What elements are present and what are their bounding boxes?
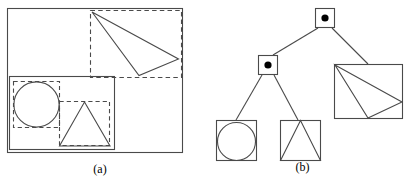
scene-diagram-a [0,0,200,184]
triangle-top-right [92,12,179,76]
triangle-leaf-box [281,121,321,161]
caption-a: (a) [0,162,200,176]
circle-primitive [14,82,59,127]
edge-root-to-big-triangle-leaf [332,28,368,64]
circle-leaf-primitive [218,123,256,161]
panel-b: (b) [200,0,405,184]
big-triangle-leaf-box [335,65,403,119]
outer-scene-box [8,9,183,153]
root-node-dot-icon [321,14,328,21]
left-internal-node-dot-icon [264,61,271,68]
dashed-bbox-lower-triangle [60,102,110,146]
big-triangle-leaf-primitive [335,65,402,118]
edge-root-to-left-internal [273,28,318,55]
triangle-lower [60,102,111,146]
edge-left-internal-to-circle-leaf [236,75,262,120]
figure-root: (a) [0,0,405,184]
edge-left-internal-to-triangle-leaf [274,75,298,120]
caption-b: (b) [200,160,405,174]
panel-a: (a) [0,0,200,184]
scene-tree-diagram-b [200,0,405,184]
triangle-leaf-primitive [281,121,321,161]
dashed-bbox-top-right-triangle [91,11,182,78]
group-box-lower-left [10,77,115,150]
